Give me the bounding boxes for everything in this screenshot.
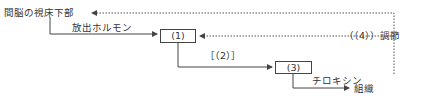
node-box-1: (1) (160, 29, 196, 43)
label-hormone-2: ［（2）］ (205, 50, 241, 61)
node-tissue: 組織 (354, 83, 374, 94)
label-release-hormone: 放出ホルモン (72, 22, 132, 33)
node-hypothalamus: 間脳の視床下部 (4, 7, 74, 18)
label-feedback-regulation: （（4））調節 (344, 30, 400, 41)
node-box-3: (3) (275, 61, 312, 74)
